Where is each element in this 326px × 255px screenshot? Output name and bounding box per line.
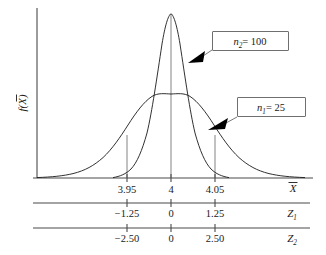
z2-tick-label-lower: −2.50 bbox=[115, 233, 139, 244]
callout-n1-value: = 25 bbox=[266, 102, 285, 113]
z1-tick-label-center: 0 bbox=[168, 208, 173, 219]
normal-distribution-chart: f(X) 3.95 4 4.05 X −1.25 bbox=[0, 0, 326, 255]
xbar-tick-label-lower: 3.95 bbox=[118, 184, 136, 195]
xbar-tick-label-upper: 4.05 bbox=[206, 184, 224, 195]
callout-n2-value: = 100 bbox=[242, 36, 266, 47]
xbar-axis-name-text: X bbox=[289, 182, 298, 194]
xbar-axis-name: X bbox=[289, 182, 298, 194]
svg-text:f(X): f(X) bbox=[16, 94, 29, 111]
callout-n2-arrow-icon bbox=[188, 51, 205, 63]
z1-tick-label-upper: 1.25 bbox=[206, 208, 224, 219]
callout-n2: n2= 100 bbox=[188, 32, 289, 64]
xbar-tick-label-center: 4 bbox=[168, 184, 174, 195]
z2-axis-name: Z2 bbox=[287, 232, 297, 247]
callout-n1-leader bbox=[226, 117, 237, 123]
z2-tick-label-upper: 2.50 bbox=[206, 233, 224, 244]
y-axis-label-close: ) bbox=[16, 94, 29, 99]
callout-n1: n1= 25 bbox=[208, 98, 306, 131]
z2-axis-name-subscript: 2 bbox=[293, 239, 297, 247]
y-axis-label: f(X) bbox=[16, 94, 29, 111]
z1-tick-label-lower: −1.25 bbox=[115, 208, 139, 219]
z1-axis-name-subscript: 1 bbox=[293, 214, 297, 222]
z1-axis-name: Z1 bbox=[287, 207, 297, 222]
z2-tick-label-center: 0 bbox=[168, 233, 173, 244]
